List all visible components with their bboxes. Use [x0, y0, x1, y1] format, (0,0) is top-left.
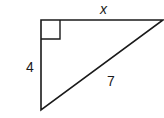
hypotenuse-label: 7 — [107, 73, 115, 89]
top-side-label: x — [99, 1, 108, 17]
right-angle-marker — [41, 20, 60, 39]
left-side-label: 4 — [26, 59, 34, 75]
triangle-diagram: x 4 7 — [0, 0, 164, 118]
